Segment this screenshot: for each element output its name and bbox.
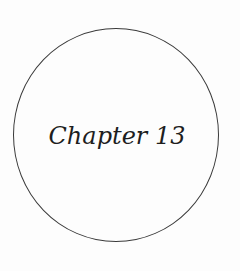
chapter-title-page: Chapter 13 [0,0,240,271]
chapter-heading: Chapter 13 [0,120,240,152]
chapter-title-text: Chapter 13 [49,120,186,152]
